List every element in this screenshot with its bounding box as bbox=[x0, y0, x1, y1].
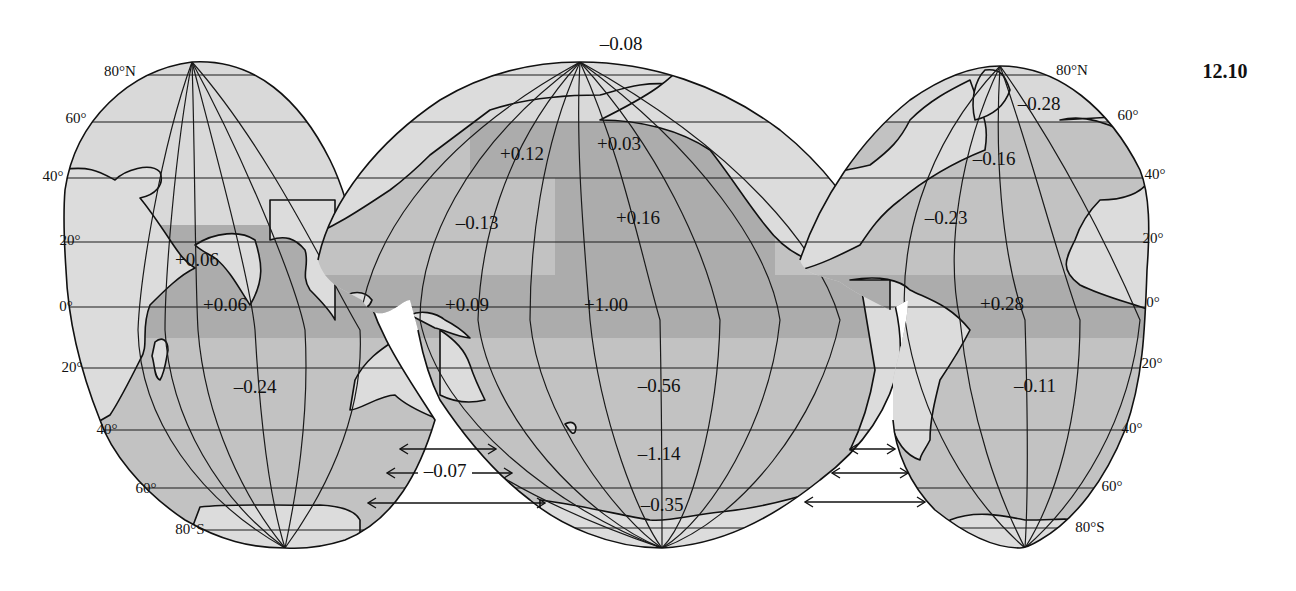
value-label: –0.28 bbox=[1017, 93, 1061, 114]
value-label: –0.11 bbox=[1013, 375, 1056, 396]
lat-label: 0° bbox=[59, 298, 73, 314]
value-label: –0.35 bbox=[640, 494, 684, 515]
ocean-basin-map: 80°N 60° 40° 20° 0° 20° 40° 60° 80°S 80°… bbox=[0, 0, 1296, 591]
value-label: +0.06 bbox=[203, 294, 247, 315]
value-label: +0.16 bbox=[616, 207, 660, 228]
value-label: +0.12 bbox=[500, 143, 544, 164]
value-label: –1.14 bbox=[637, 443, 681, 464]
lat-label: 40° bbox=[1145, 166, 1166, 182]
lat-label: 60° bbox=[136, 480, 157, 496]
lat-label: 60° bbox=[1118, 107, 1139, 123]
double-arrow bbox=[832, 468, 908, 478]
value-label: +0.06 bbox=[175, 249, 219, 270]
value-label: –0.56 bbox=[637, 375, 681, 396]
lat-label: 80°N bbox=[1056, 62, 1088, 78]
value-label: +1.00 bbox=[584, 294, 628, 315]
double-arrow bbox=[805, 497, 925, 507]
figure-number: 12.10 bbox=[1203, 60, 1248, 82]
value-label: –0.13 bbox=[455, 212, 499, 233]
lat-label: 20° bbox=[62, 359, 83, 375]
lat-label: 40° bbox=[43, 168, 64, 184]
value-label: –0.24 bbox=[233, 376, 277, 397]
lat-label: 20° bbox=[1142, 355, 1163, 371]
value-label: –0.23 bbox=[924, 207, 968, 228]
lat-label: 0° bbox=[1146, 294, 1160, 310]
value-label: +0.28 bbox=[980, 293, 1024, 314]
value-label: +0.09 bbox=[445, 294, 489, 315]
value-label: –0.16 bbox=[972, 148, 1016, 169]
lat-label: 40° bbox=[1122, 420, 1143, 436]
value-label-interbasin: –0.07 bbox=[423, 460, 467, 481]
lat-label: 20° bbox=[60, 232, 81, 248]
lat-label: 80°S bbox=[175, 521, 204, 537]
lat-label: 40° bbox=[97, 421, 118, 437]
lat-label: 80°S bbox=[1075, 519, 1104, 535]
value-label: –0.08 bbox=[599, 33, 643, 54]
lat-label: 80°N bbox=[104, 63, 136, 79]
double-arrow bbox=[850, 444, 895, 454]
landmass-antarctica bbox=[180, 505, 360, 560]
lat-label: 60° bbox=[66, 110, 87, 126]
lat-label: 60° bbox=[1102, 478, 1123, 494]
value-label: +0.03 bbox=[597, 133, 641, 154]
lat-label: 20° bbox=[1143, 230, 1164, 246]
